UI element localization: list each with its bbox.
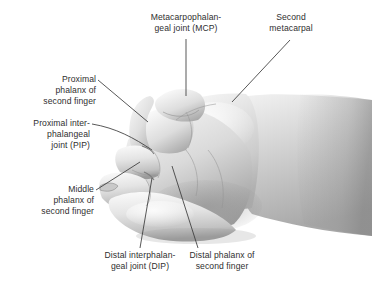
leader-proximal-phalanx — [98, 80, 148, 122]
leader-distal-phalanx — [172, 166, 198, 248]
leader-dip-joint — [140, 178, 152, 248]
label-second-metacarpal: Second metacarpal — [246, 12, 336, 34]
label-mcp-joint: Metacarpophalan- geal joint (MCP) — [130, 12, 242, 34]
leader-middle-phalanx — [96, 162, 140, 190]
label-middle-phalanx: Middle phalanx of second finger — [2, 184, 94, 217]
leader-pip-joint — [92, 124, 152, 150]
label-proximal-phalanx: Proximal phalanx of second finger — [4, 74, 96, 107]
label-pip-joint: Proximal inter- phalangeal joint (PIP) — [2, 118, 90, 151]
label-distal-phalanx: Distal phalanx of second finger — [166, 250, 278, 272]
leader-second-metacarpal — [232, 40, 290, 102]
hand-anatomy-figure: Metacarpophalan- geal joint (MCP) Second… — [0, 0, 372, 289]
